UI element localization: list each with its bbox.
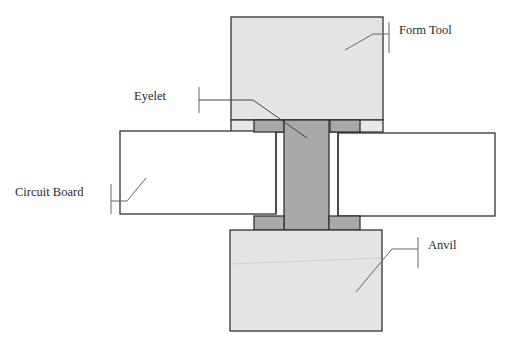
- circuit-board-left: [120, 131, 276, 214]
- form-tool-label: Form Tool: [399, 23, 452, 37]
- anvil: [230, 230, 382, 331]
- form-tool: [231, 17, 383, 132]
- circuit-board-label: Circuit Board: [15, 185, 84, 199]
- eyelet-label: Eyelet: [134, 89, 166, 103]
- anvil-label: Anvil: [428, 238, 457, 252]
- eyelet-diagram: Form Tool Eyelet Circuit Board Anvil: [0, 0, 511, 347]
- circuit-board-right: [338, 133, 495, 216]
